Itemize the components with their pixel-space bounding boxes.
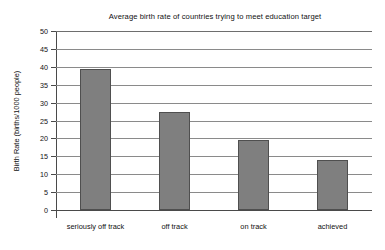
y-axis-tick	[51, 156, 56, 157]
x-axis-tick-label: achieved	[318, 222, 348, 231]
y-axis-tick	[51, 31, 56, 32]
plot-area	[56, 31, 372, 210]
bar	[317, 160, 348, 210]
y-axis-tick	[51, 174, 56, 175]
chart-title: Average birth rate of countries trying t…	[60, 12, 370, 21]
bar	[238, 140, 269, 210]
y-axis-tick	[51, 192, 56, 193]
y-axis-tick	[51, 85, 56, 86]
y-axis-tick	[51, 103, 56, 104]
bar	[159, 112, 190, 210]
bar-chart: Average birth rate of countries trying t…	[0, 0, 385, 250]
y-axis-tick	[51, 138, 56, 139]
y-axis-tick	[51, 49, 56, 50]
y-axis-tick-label: 25	[26, 117, 48, 126]
y-axis-tick	[51, 67, 56, 68]
y-axis-tick-label: 20	[26, 134, 48, 143]
y-axis-title-text: Birth Rate (births/1000 people)	[12, 70, 21, 171]
y-axis-tick-label: 0	[26, 206, 48, 215]
y-axis-tick-label: 15	[26, 152, 48, 161]
gridline	[56, 210, 372, 211]
y-axis-tick-label: 35	[26, 81, 48, 90]
y-axis-tick-label: 10	[26, 170, 48, 179]
y-axis-tick-label: 45	[26, 45, 48, 54]
x-axis-tick-label: on track	[240, 222, 266, 231]
y-axis-tick-label: 40	[26, 63, 48, 72]
y-axis-tick-label: 30	[26, 99, 48, 108]
y-axis-tick	[51, 121, 56, 122]
y-axis-tick-label: 5	[26, 188, 48, 197]
y-axis-tick	[51, 210, 56, 211]
x-axis-tick-label: seriously off track	[67, 222, 124, 231]
gridline	[56, 49, 372, 50]
y-axis-tick-label: 50	[26, 27, 48, 36]
x-axis-tick-label: off track	[161, 222, 187, 231]
gridline	[56, 67, 372, 68]
gridline	[56, 31, 372, 32]
y-axis-title: Birth Rate (births/1000 people)	[8, 31, 24, 210]
bar	[80, 69, 111, 210]
